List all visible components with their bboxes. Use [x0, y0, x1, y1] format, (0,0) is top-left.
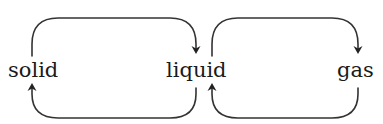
- node-gas: gas: [337, 60, 374, 81]
- arrow-liquid-to-solid: [28, 83, 197, 118]
- arrow-liquid-to-gas: [212, 18, 363, 56]
- phase-change-diagram: solid liquid gas: [0, 0, 383, 124]
- node-solid: solid: [8, 60, 58, 81]
- node-liquid: liquid: [166, 60, 227, 81]
- arrow-gas-to-liquid: [208, 83, 359, 118]
- arrow-solid-to-liquid: [32, 18, 201, 56]
